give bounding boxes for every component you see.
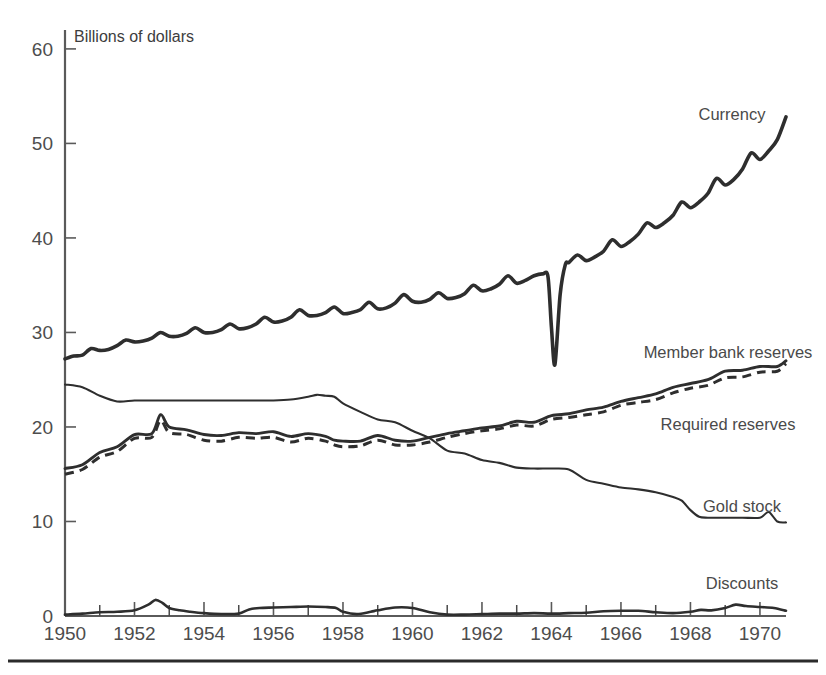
- series-label-currency: Currency: [699, 105, 767, 123]
- x-tick-labels: 1950195219541956195819601962196419661968…: [44, 623, 781, 644]
- series-label-discounts: Discounts: [706, 574, 778, 592]
- x-tick-label: 1954: [183, 623, 226, 644]
- y-tick-label: 40: [32, 228, 53, 249]
- series-label-member-bank-reserves: Member bank reserves: [644, 343, 813, 361]
- x-tick-label: 1956: [252, 623, 294, 644]
- series-line-discounts: [65, 600, 786, 615]
- axis-unit-note: Billions of dollars: [74, 28, 194, 45]
- series-line-currency: [65, 117, 786, 365]
- x-tick-label: 1962: [461, 623, 503, 644]
- chart-figure: 0102030405060 19501952195419561958196019…: [0, 0, 826, 675]
- y-tick-label: 30: [32, 322, 53, 343]
- y-tick-label: 60: [32, 39, 53, 60]
- data-series-group: [65, 117, 786, 615]
- y-tick-label: 20: [32, 417, 53, 438]
- series-label-required-reserves: Required reserves: [661, 415, 796, 433]
- line-chart-canvas: 0102030405060 19501952195419561958196019…: [0, 0, 826, 675]
- x-tick-label: 1952: [113, 623, 155, 644]
- x-tick-label: 1950: [44, 623, 86, 644]
- x-tick-label: 1966: [600, 623, 642, 644]
- series-label-gold-stock: Gold stock: [703, 497, 782, 515]
- y-tick-labels: 0102030405060: [32, 39, 53, 627]
- y-tick-marks: [65, 49, 76, 616]
- x-tick-label: 1970: [739, 623, 781, 644]
- axes: [65, 30, 786, 616]
- x-tick-label: 1960: [391, 623, 433, 644]
- series-line-gold-stock: [65, 384, 786, 522]
- y-tick-label: 50: [32, 133, 53, 154]
- x-tick-label: 1968: [669, 623, 711, 644]
- y-tick-label: 10: [32, 511, 53, 532]
- x-tick-label: 1958: [322, 623, 364, 644]
- series-labels-group: Currency Member bank reserves Required r…: [644, 105, 813, 592]
- x-tick-label: 1964: [530, 623, 573, 644]
